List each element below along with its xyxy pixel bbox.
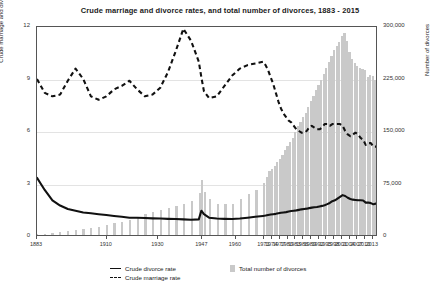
x-tick-mark <box>372 236 373 239</box>
x-tick-mark <box>333 236 334 239</box>
bar-swatch-icon <box>230 265 235 272</box>
x-tick-mark <box>325 236 326 239</box>
y-axis-right-label: Number of divorces <box>424 0 430 100</box>
x-tick-label: 1960 <box>229 241 241 247</box>
x-tick-mark <box>263 236 264 239</box>
x-tick-mark <box>235 236 236 239</box>
x-tick-mark <box>287 236 288 239</box>
plot-area <box>36 26 377 236</box>
chart-title: Crude marriage and divorce rates, and to… <box>0 6 440 15</box>
x-tick-mark <box>271 236 272 239</box>
x-tick-mark <box>349 236 350 239</box>
y-tick-label-right: 0 <box>383 232 423 238</box>
x-tick-mark <box>356 236 357 239</box>
legend-label-marriage-rate: Crude marriage rate <box>125 274 180 281</box>
legend-label-divorce-rate: Crude divorce rate <box>125 265 176 272</box>
x-tick-label: 2013 <box>366 241 378 247</box>
x-tick-label: 1883 <box>30 241 42 247</box>
x-tick-mark <box>157 236 158 239</box>
legend-item-marriage-rate: Crude marriage rate <box>110 274 230 281</box>
x-tick-mark <box>364 236 365 239</box>
y-tick-label-left: 3 <box>0 180 30 186</box>
x-tick-mark <box>302 236 303 239</box>
x-tick-mark <box>294 236 295 239</box>
solid-line-icon <box>110 268 121 269</box>
x-tick-mark <box>36 236 37 239</box>
y-tick-label-left: 9 <box>0 75 30 81</box>
line-series-layer <box>37 27 376 235</box>
x-tick-mark <box>310 236 311 239</box>
x-tick-label: 1947 <box>195 241 207 247</box>
legend-item-total-divorces: Total number of divorces <box>230 265 306 272</box>
crude-divorce-rate-line <box>37 178 376 220</box>
chart-legend: Crude divorce rate Total number of divor… <box>110 264 370 282</box>
y-tick-label-right: 75,000 <box>383 180 423 186</box>
y-tick-label-left: 0 <box>0 232 30 238</box>
y-tick-label-left: 12 <box>0 22 30 28</box>
y-tick-label-right: 225,000 <box>383 75 423 81</box>
x-tick-mark <box>201 236 202 239</box>
chart-figure: Crude marriage and divorce rates, and to… <box>0 0 440 289</box>
x-tick-label: 1910 <box>100 241 112 247</box>
x-tick-mark <box>341 236 342 239</box>
y-axis-left-label: Crude marriage and divorce rates <box>0 0 4 78</box>
legend-item-divorce-rate: Crude divorce rate <box>110 265 230 272</box>
y-tick-label-left: 6 <box>0 127 30 133</box>
x-tick-mark <box>318 236 319 239</box>
legend-label-total-divorces: Total number of divorces <box>239 265 306 272</box>
dashed-line-icon <box>110 277 121 278</box>
x-tick-mark <box>279 236 280 239</box>
crude-marriage-rate-line <box>37 29 376 147</box>
y-tick-label-right: 300,000 <box>383 22 423 28</box>
x-tick-mark <box>106 236 107 239</box>
x-tick-label: 1930 <box>151 241 163 247</box>
y-tick-label-right: 150,000 <box>383 127 423 133</box>
